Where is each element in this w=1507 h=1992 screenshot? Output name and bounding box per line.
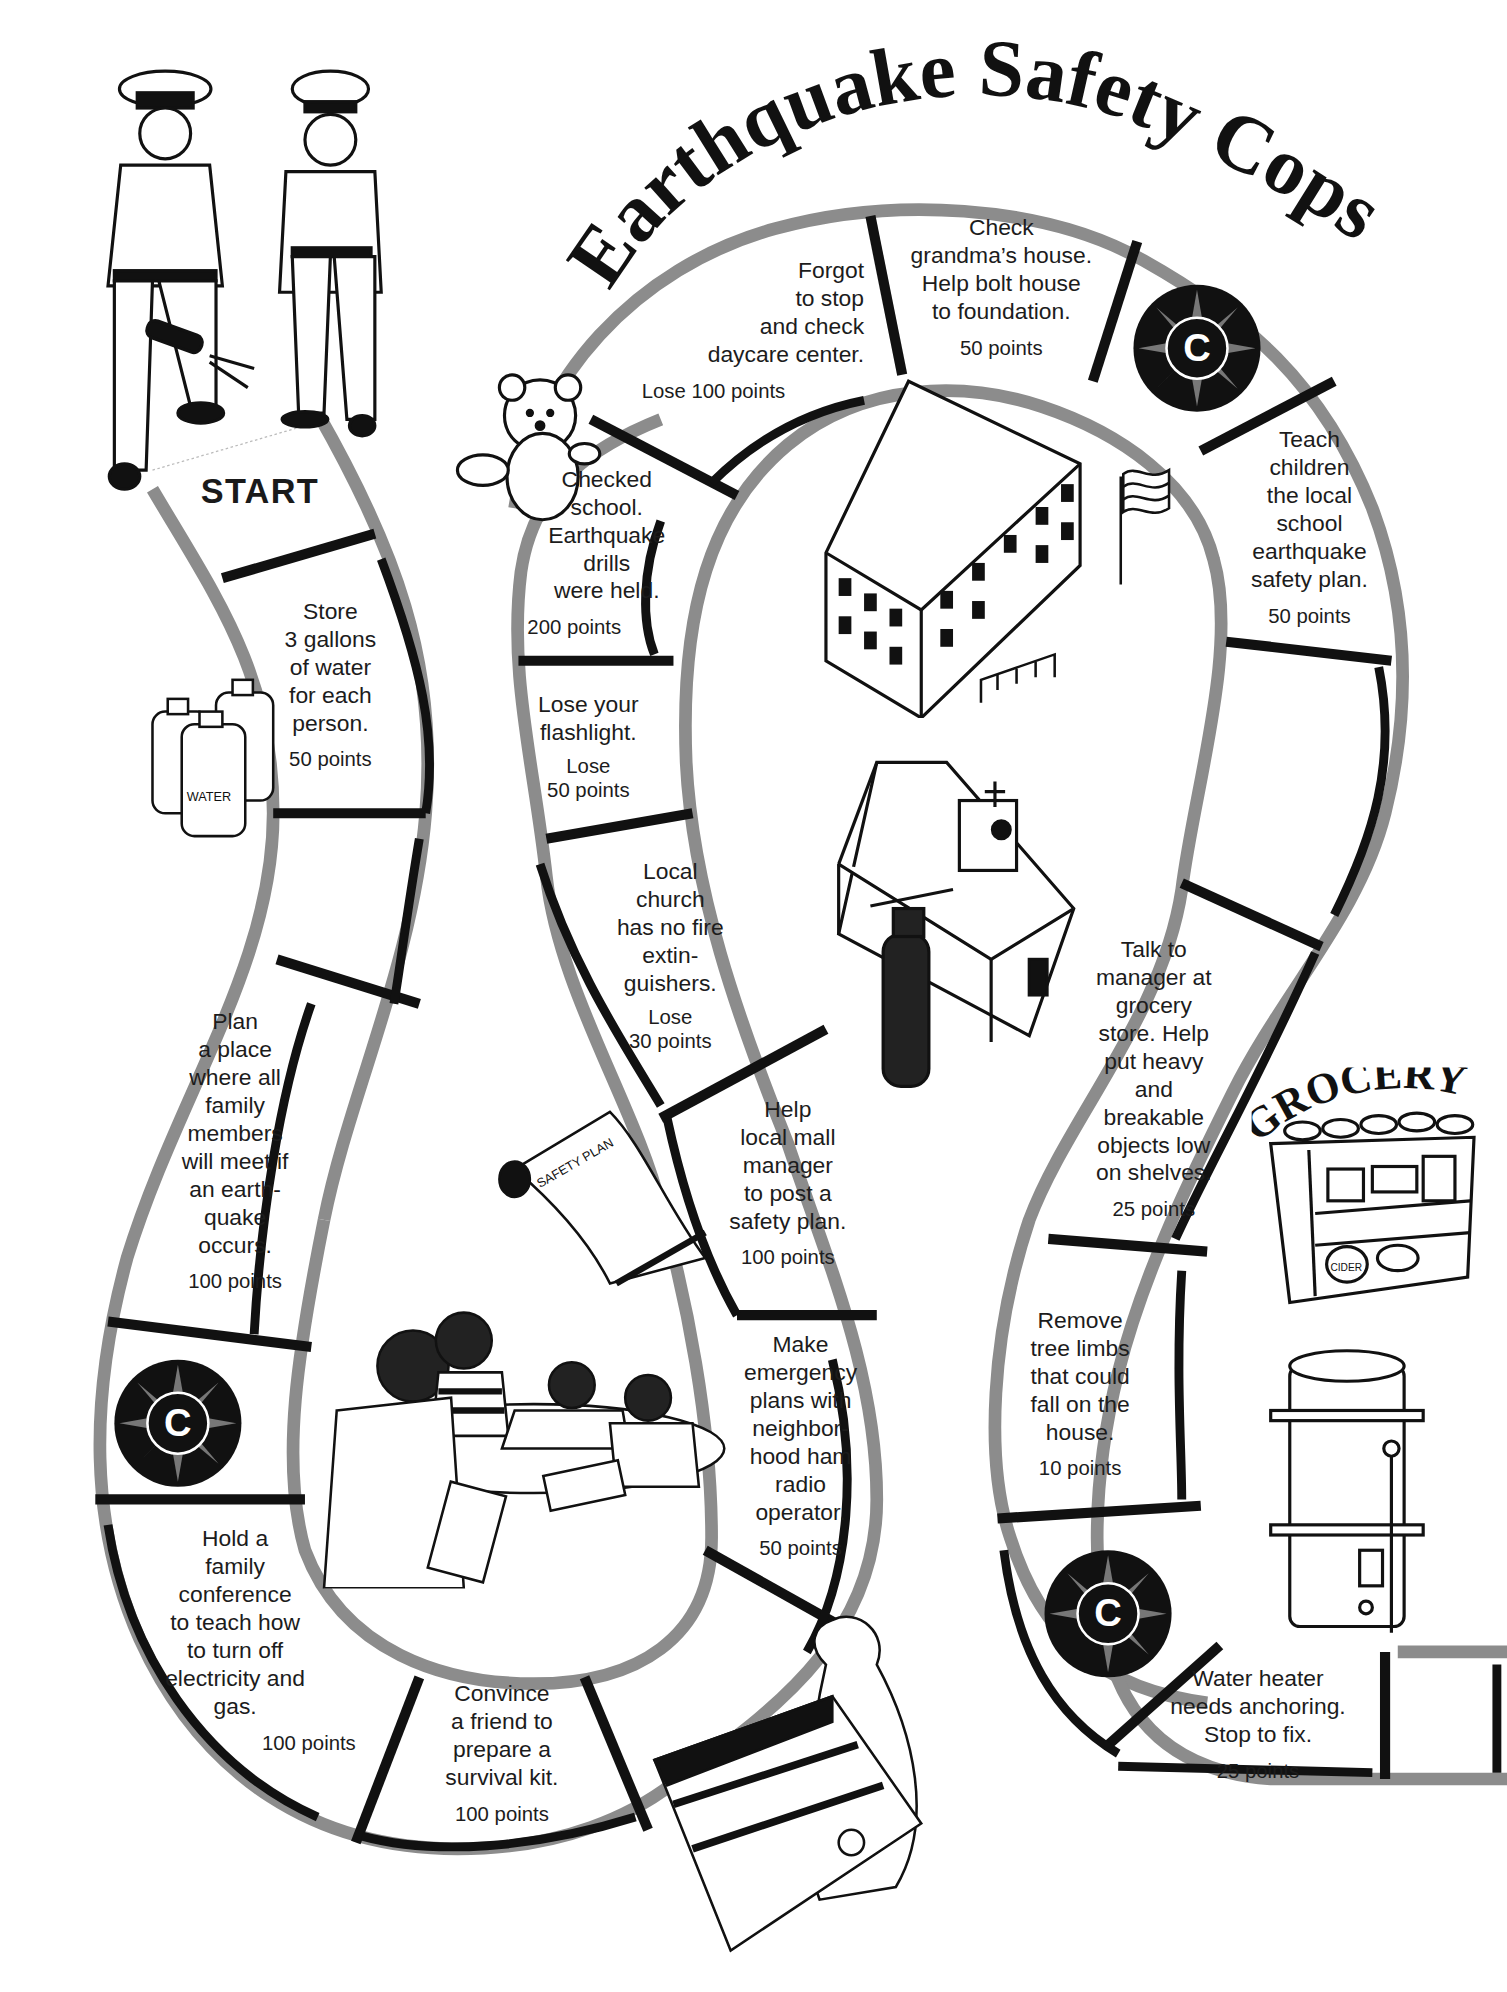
space-family-conference[interactable]: Hold a family conference to teach how to…	[114, 1525, 355, 1755]
space-blank-3[interactable]	[1239, 667, 1379, 870]
space-points: 50 points	[1230, 604, 1389, 628]
cider-label: CIDER	[1330, 1262, 1362, 1273]
space-plan-meeting-place[interactable]: Plan a place where all family members wi…	[133, 1008, 336, 1294]
start-space[interactable]: START	[201, 473, 319, 512]
space-forgot-daycare[interactable]: Forgot to stop and check daycare center.…	[642, 257, 864, 403]
space-text: Forgot to stop and check daycare center.	[708, 258, 864, 367]
space-text: Local church has no fire extin- guishers…	[617, 859, 724, 996]
badge-letter: C	[164, 1401, 192, 1444]
space-mall-safety-plan[interactable]: Help local mall manager to post a safety…	[705, 1095, 870, 1269]
water-jug-label: WATER	[187, 790, 231, 804]
space-grocery-manager[interactable]: Talk to manager at grocery store. Help p…	[1071, 935, 1236, 1221]
space-points: 50 points	[254, 747, 406, 771]
space-points: Lose 30 points	[591, 1005, 750, 1053]
space-text: Water heater needs anchoring. Stop to fi…	[1170, 1666, 1345, 1747]
space-text: Convince a friend to prepare a survival …	[445, 1681, 558, 1790]
space-points: 200 points	[527, 615, 686, 639]
badge-letter: C	[1183, 326, 1211, 369]
cops-badge-icon: C	[1042, 1548, 1174, 1680]
space-points: Lose 50 points	[518, 754, 658, 802]
space-grandmas-house[interactable]: Check grandma’s house. Help bolt house t…	[887, 213, 1116, 359]
space-points: 10 points	[1010, 1456, 1150, 1480]
space-text: Remove tree limbs that could fall on the…	[1030, 1308, 1129, 1445]
space-points: 25 points	[1144, 1759, 1373, 1783]
space-text: Checked school. Earthquake drills were h…	[548, 466, 665, 603]
space-text: Help local mall manager to post a safety…	[729, 1097, 846, 1234]
space-blank-1[interactable]	[277, 839, 417, 966]
cops-badge-icon: C	[1131, 282, 1263, 414]
space-points: 25 points	[1071, 1197, 1236, 1221]
family-conference-illustration	[311, 1296, 730, 1588]
space-points: 50 points	[724, 1536, 876, 1560]
space-text: Plan a place where all family members wi…	[182, 1009, 289, 1258]
school-building-illustration	[820, 375, 1112, 718]
space-store-water[interactable]: Store 3 gallons of water for each person…	[254, 597, 406, 771]
space-points: 50 points	[887, 335, 1116, 359]
space-text: Talk to manager at grocery store. Help p…	[1096, 937, 1212, 1186]
safety-plan-scroll-illustration: SAFETY PLAN	[489, 1093, 724, 1296]
space-text: Make emergency plans with neighbor- hood…	[744, 1332, 857, 1525]
space-tree-limbs[interactable]: Remove tree limbs that could fall on the…	[1010, 1306, 1150, 1480]
space-points: Lose 100 points	[642, 379, 864, 403]
space-points: 100 points	[133, 1269, 336, 1293]
space-checked-school[interactable]: Checked school. Earthquake drills were h…	[527, 465, 686, 639]
space-blank-2[interactable]	[642, 1576, 794, 1728]
playground-illustration	[978, 642, 1067, 706]
space-water-heater[interactable]: Water heater needs anchoring. Stop to fi…	[1144, 1665, 1373, 1783]
space-text: Hold a family conference to teach how to…	[165, 1526, 305, 1719]
grocery-shelf-illustration: GROCERY CIDER	[1252, 1067, 1506, 1308]
space-text: Check grandma’s house. Help bolt house t…	[911, 215, 1092, 324]
church-extinguisher-illustration	[832, 756, 1086, 1099]
flag-illustration	[1106, 464, 1182, 591]
space-points: 100 points	[413, 1802, 591, 1826]
space-points: 100 points	[191, 1731, 356, 1755]
space-text: Store 3 gallons of water for each person…	[285, 598, 377, 735]
game-board: Earthquake Safety Cops	[0, 0, 1507, 1992]
space-points: 100 points	[705, 1245, 870, 1269]
space-church-extinguishers[interactable]: Local church has no fire extin- guishers…	[591, 858, 750, 1054]
space-lose-flashlight[interactable]: Lose your flashlight. Lose 50 points	[518, 690, 658, 802]
space-survival-kit[interactable]: Convince a friend to prepare a survival …	[413, 1680, 591, 1826]
space-finish-blank[interactable]	[1398, 1665, 1497, 1773]
space-text: Lose your flashlight.	[538, 691, 638, 744]
space-school-safety-plan[interactable]: Teach children the local school earthqua…	[1230, 426, 1389, 628]
cops-badge-icon: C	[112, 1357, 244, 1489]
badge-letter: C	[1094, 1591, 1122, 1634]
space-ham-radio[interactable]: Make emergency plans with neighbor- hood…	[724, 1330, 876, 1560]
space-text: Teach children the local school earthqua…	[1251, 427, 1368, 592]
water-heater-illustration	[1264, 1334, 1429, 1652]
